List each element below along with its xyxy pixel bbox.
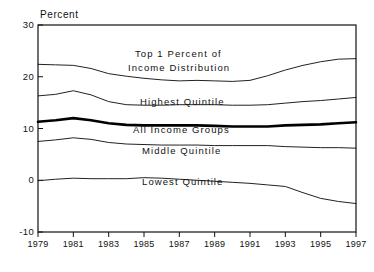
y-tick-label: 20 [2,71,34,82]
series-annotation-label: Income Distribution [128,62,230,73]
y-tick-label: -10 [2,226,34,237]
chart-canvas [0,0,374,272]
x-tick-label: 1995 [301,239,341,249]
y-tick-label: 30 [2,19,34,30]
series-annotation-label: Top 1 Percent of [135,48,222,59]
series-annotation-label: Lowest Quintile [142,176,223,187]
x-tick-label: 1997 [336,239,374,249]
x-tick-label: 1991 [230,239,270,249]
x-tick-label: 1979 [18,239,58,249]
x-tick-label: 1989 [195,239,235,249]
x-tick-label: 1993 [265,239,305,249]
x-tick-label: 1983 [89,239,129,249]
series-annotation-label: Middle Quintile [142,145,221,156]
y-tick-label: 10 [2,123,34,134]
x-tick-label: 1981 [53,239,93,249]
x-tick-label: 1985 [124,239,164,249]
y-tick-label: 0 [2,174,34,185]
chart-container: Percent 3020100-10 197919811983198519871… [0,0,374,272]
x-tick-label: 1987 [159,239,199,249]
series-annotation-label: Highest Quintile [140,96,225,107]
series-annotation-label: All Income Groups [133,124,230,135]
